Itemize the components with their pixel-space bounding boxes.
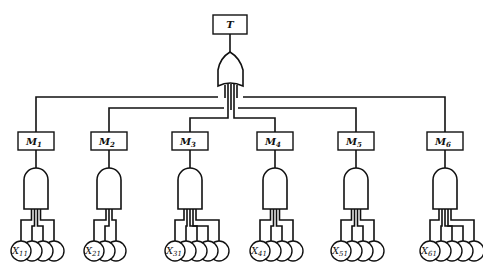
and-gate-icon	[263, 168, 287, 209]
and-gate-icon	[97, 168, 121, 209]
module-2: M2X21	[84, 132, 127, 261]
and-gate-icon	[178, 168, 202, 209]
module-6: M6X61	[420, 132, 483, 261]
connection-lines	[36, 97, 445, 132]
module-3: M3X31	[165, 132, 229, 261]
and-gate-inputs	[260, 209, 293, 241]
and-gate-inputs	[430, 209, 474, 241]
and-gate-inputs	[175, 209, 219, 241]
top-event: T	[213, 15, 247, 53]
module-1: M1X11	[11, 132, 64, 261]
module-5: M5X51	[331, 132, 384, 261]
and-gate-icon	[24, 168, 48, 209]
fault-tree-diagram: T M1X11M2X21M3X31M4X41M5X51M6X61	[0, 0, 483, 271]
and-gate-icon	[344, 168, 368, 209]
or-gate-icon	[218, 52, 243, 86]
and-gate-inputs	[341, 209, 374, 241]
and-gate-inputs	[21, 209, 54, 241]
and-gate-icon	[433, 168, 457, 209]
module-4: M4X41	[250, 132, 303, 261]
or-gate-inputs	[225, 84, 237, 110]
and-gate-inputs	[94, 209, 116, 241]
